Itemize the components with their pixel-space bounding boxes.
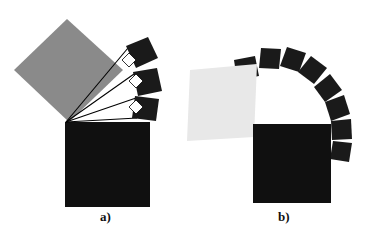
panel-a-canvas — [0, 0, 185, 238]
arc-square-8 — [330, 141, 352, 162]
rotating-gray-square — [14, 19, 123, 122]
light-gray-square — [187, 64, 257, 141]
figure-root: a) b) — [0, 0, 369, 238]
panel-b-canvas — [185, 0, 369, 238]
arc-square-7 — [331, 119, 352, 140]
panel-a-caption: a) — [100, 210, 111, 223]
panel-b-caption: b) — [278, 210, 290, 223]
arc-square-2 — [259, 48, 281, 69]
panel-a: a) — [0, 0, 185, 238]
base-square-b — [253, 124, 331, 203]
base-square — [65, 122, 150, 207]
panel-b: b) — [185, 0, 369, 238]
